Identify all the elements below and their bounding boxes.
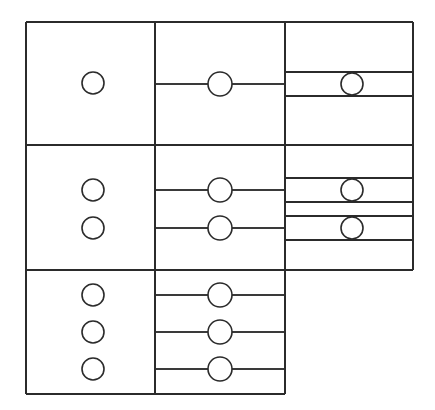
node-c3-n3[interactable] xyxy=(341,217,363,239)
node-c2-n6[interactable] xyxy=(208,357,232,381)
diagram-root xyxy=(0,0,435,410)
diagram-background xyxy=(0,0,435,410)
node-c3-n1[interactable] xyxy=(341,73,363,95)
node-c3-n2[interactable] xyxy=(341,179,363,201)
node-c1-n6[interactable] xyxy=(82,358,104,380)
node-c1-n3[interactable] xyxy=(82,217,104,239)
node-c2-n1[interactable] xyxy=(208,72,232,96)
node-c2-n2[interactable] xyxy=(208,178,232,202)
node-c1-n4[interactable] xyxy=(82,284,104,306)
node-c2-n4[interactable] xyxy=(208,283,232,307)
node-c2-n5[interactable] xyxy=(208,320,232,344)
node-c1-n1[interactable] xyxy=(82,72,104,94)
nested-partition-diagram xyxy=(0,0,435,410)
node-c1-n2[interactable] xyxy=(82,179,104,201)
node-c1-n5[interactable] xyxy=(82,321,104,343)
node-c2-n3[interactable] xyxy=(208,216,232,240)
